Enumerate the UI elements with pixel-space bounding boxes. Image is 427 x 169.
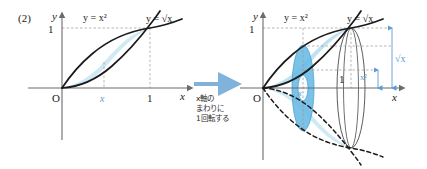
right-x-axis-label: x: [391, 91, 397, 103]
transition-block: x軸の まわりに 1回転する: [194, 84, 238, 123]
right-label-sqrt: y = √x: [347, 13, 373, 24]
right-x-var-label: x: [297, 88, 302, 98]
right-y-tick-1: 1: [249, 23, 255, 35]
rotate-instruction-line-2: まわりに: [196, 104, 224, 113]
left-label-sqrt: y = √x: [146, 13, 172, 24]
right-label-parabola: y = x²: [284, 12, 308, 23]
right-figure: √x x² y x 1 1 O x y = x² y = √x: [240, 10, 406, 165]
problem-number: (2): [18, 12, 31, 25]
rotate-instruction-line-3: 1回転する: [196, 114, 229, 123]
left-x-tick-1: 1: [147, 92, 153, 104]
left-shaded-region: [62, 28, 150, 88]
left-figure: y x 1 1 O x y = x² y = √x: [28, 10, 188, 140]
right-origin-label: O: [253, 92, 261, 104]
measure-sqrt-label: √x: [395, 53, 406, 64]
left-curve-sqrt: [62, 19, 182, 88]
math-figure-svg: (2) y x 1 1 O x y = x² y = √x x軸の まわりに 1…: [0, 0, 427, 169]
rotate-instruction-line-1: x軸の: [196, 93, 214, 103]
left-y-tick-1: 1: [48, 23, 54, 35]
left-origin-label: O: [52, 92, 60, 104]
right-x-tick-1: 1: [339, 73, 345, 85]
measure-xsq-label: x²: [360, 72, 367, 82]
left-label-parabola: y = x²: [83, 12, 107, 23]
right-y-axis-label: y: [252, 10, 258, 22]
figure-container: (2) y x 1 1 O x y = x² y = √x x軸の まわりに 1…: [0, 0, 427, 169]
left-x-axis-label: x: [179, 90, 185, 102]
left-x-var-label: x: [99, 93, 105, 104]
left-y-axis-label: y: [51, 10, 57, 22]
